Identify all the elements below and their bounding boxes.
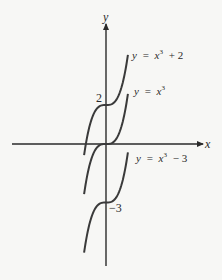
cubic-shift-plot: y x 2 −3 y = x3 + 2 y = x3 y = x3 − 3 — [0, 0, 222, 280]
x-axis-label: x — [204, 137, 211, 151]
tick-label-2: 2 — [96, 91, 102, 105]
tick-label-neg3: −3 — [109, 201, 122, 215]
label-curve-bot: y = x3 − 3 — [135, 147, 188, 164]
y-axis-label: y — [102, 10, 109, 24]
label-curve-mid: y = x3 — [133, 84, 166, 97]
label-curve-top: y = x3 + 2 — [131, 44, 183, 61]
